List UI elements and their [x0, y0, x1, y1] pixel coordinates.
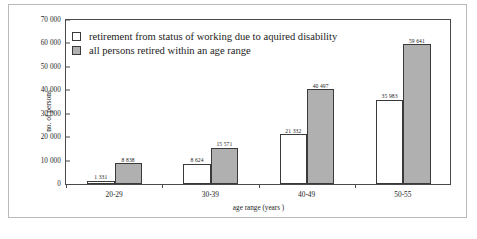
- legend-swatch-dark: [72, 46, 81, 55]
- legend-swatch-light: [72, 32, 81, 41]
- bar-value-label: 1 331: [94, 174, 107, 180]
- legend-item: all persons retired within an age range: [72, 45, 337, 56]
- x-axis-tick-mark: [259, 184, 260, 188]
- y-axis-tick-label: 50 000: [41, 63, 66, 71]
- bar-50-55-series-1: 35 983: [376, 100, 403, 184]
- x-axis-tick-mark: [355, 184, 356, 188]
- bar-20-29-series-2: 8 838: [115, 163, 142, 184]
- bar-value-label: 15 571: [216, 141, 232, 147]
- x-axis-tick-label: 30-39: [202, 190, 219, 199]
- bar-30-39-series-2: 15 571: [211, 148, 238, 184]
- y-axis-tick-label: 0: [57, 180, 66, 188]
- bar-50-55-series-2: 59 641: [403, 44, 430, 184]
- chart-legend: retirement from status of working due to…: [72, 31, 337, 59]
- y-axis-tick-label: 10 000: [41, 157, 66, 165]
- bar-group: 35 98359 641: [355, 20, 451, 184]
- legend-item: retirement from status of working due to…: [72, 31, 337, 42]
- bar-30-39-series-1: 8 624: [183, 164, 210, 184]
- bar-20-29-series-1: 1 331: [87, 181, 114, 184]
- bar-40-49-series-2: 40 497: [307, 89, 334, 184]
- bar-value-label: 8 838: [122, 157, 135, 163]
- figure-frame: no. of persons 010 00020 00030 00040 000…: [8, 4, 467, 218]
- bar-40-49-series-1: 21 332: [280, 134, 307, 184]
- x-axis-tick-label: 50-55: [394, 190, 411, 199]
- x-axis-tick-mark: [162, 184, 163, 188]
- x-axis-title: age range (years ): [233, 204, 284, 212]
- legend-item-label: all persons retired within an age range: [89, 45, 251, 56]
- y-axis-tick-label: 30 000: [41, 110, 66, 118]
- bar-value-label: 35 983: [382, 93, 398, 99]
- x-axis-tick-mark: [66, 184, 67, 188]
- y-axis-tick-label: 20 000: [41, 133, 66, 141]
- bar-value-label: 21 332: [285, 128, 301, 134]
- y-axis-tick-label: 60 000: [41, 39, 66, 47]
- x-axis-tick-label: 40-49: [298, 190, 315, 199]
- x-axis-tick-label: 20-29: [106, 190, 123, 199]
- bar-value-label: 8 624: [191, 157, 204, 163]
- bar-value-label: 40 497: [313, 83, 329, 89]
- y-axis-tick-label: 70 000: [41, 16, 66, 24]
- bar-value-label: 59 641: [409, 38, 425, 44]
- legend-item-label: retirement from status of working due to…: [89, 31, 337, 42]
- y-axis-tick-label: 40 000: [41, 86, 66, 94]
